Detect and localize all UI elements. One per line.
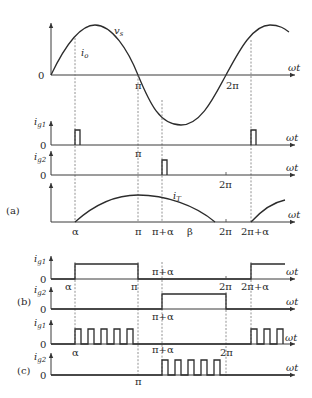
c-ig2-pulse-train [51, 360, 290, 375]
b-ig1-2pi-label: 2π [219, 281, 232, 292]
a-ig1-label: ig1 [34, 116, 46, 129]
it-next-cycle-curve [251, 200, 285, 222]
c-ig1-2pi-label: 2π [220, 347, 233, 358]
a-ig2-pulse [162, 160, 167, 175]
b-ig1-label: ig1 [34, 253, 46, 266]
a-ig2-plot: ig2 0 ωt 2π [34, 151, 299, 190]
vs-wt-label: ωt [288, 62, 301, 73]
a-ig2-label: ig2 [34, 151, 47, 164]
vs-pi-label: π [135, 80, 142, 91]
panel-b-label: (b) [17, 296, 31, 307]
c-ig1-label: ig1 [34, 317, 46, 330]
c-ig2-zero: 0 [40, 370, 46, 381]
c-plots: ig1 0 ωt α π+α 2π ig2 0 ωt π (c) [17, 317, 299, 387]
b-ig2-wt: ωt [286, 296, 299, 307]
panel-c-label: (c) [17, 365, 31, 376]
c-ig1-zero: 0 [40, 339, 46, 350]
b-ig1-wt: ωt [286, 266, 299, 277]
b-ig2-label: ig2 [34, 284, 47, 297]
c-ig2-pi-label: π [135, 376, 142, 387]
a-it-alpha-label: α [72, 226, 79, 237]
vs-zero-label: 0 [38, 70, 44, 81]
a-ig1-pi-label: π [135, 148, 142, 159]
vs-two-pi-label: 2π [226, 80, 239, 91]
a-it-pi-alpha-label: π+α [152, 226, 174, 237]
a-ig1-plot: ig1 0 ωt π [34, 116, 299, 159]
c-ig1-wt: ωt [285, 332, 298, 343]
vs-plot: 0 π 2π ωt vs io [38, 23, 301, 222]
a-it-plot: iT ωt α π π+α β 2π 2π+α (a) [6, 183, 301, 237]
a-it-2pi-alpha-label: 2π+α [241, 226, 269, 237]
b-ig1-zero: 0 [40, 274, 46, 285]
a-it-beta-label: β [187, 226, 193, 237]
thyristor-gating-diagram: 0 π 2π ωt vs io ig1 0 ωt π ig2 0 ωt 2π i… [0, 0, 312, 398]
a-ig1-zero: 0 [40, 140, 46, 151]
b-ig1-alpha-label: α [65, 281, 72, 292]
c-ig1-alpha-label: α [72, 347, 79, 358]
b-ig2-pi-alpha-label: π+α [152, 311, 174, 322]
c-ig2-label: ig2 [34, 351, 47, 364]
a-ig1-pulse-2pi-alpha [251, 130, 256, 145]
b-ig2-wave [51, 294, 290, 309]
b-ig1-2pi-alpha-label: 2π+α [241, 281, 269, 292]
it-conduction-curve [75, 195, 215, 222]
b-ig1-pi-alpha-label: π+α [152, 266, 174, 277]
b-ig1-pi-label: π [131, 281, 138, 292]
io-label: io [81, 47, 88, 60]
a-ig2-zero: 0 [40, 170, 46, 181]
a-it-wt: ωt [288, 209, 301, 220]
b-ig2-zero: 0 [40, 304, 46, 315]
a-ig1-wt: ωt [286, 132, 299, 143]
a-ig2-2pi-label: 2π [219, 179, 232, 190]
c-ig1-pulse-train [51, 329, 283, 344]
c-ig2-wt: ωt [286, 362, 299, 373]
a-it-2pi-label: 2π [219, 226, 232, 237]
b-plots: ig1 0 ωt α π π+α 2π 2π+α ig2 0 ωt π+α (b… [17, 253, 299, 376]
a-it-pi-label: π [135, 226, 142, 237]
a-ig1-pulse-alpha [75, 130, 80, 145]
panel-a-label: (a) [6, 205, 20, 216]
c-ig1-pi-alpha-label: π+α [152, 344, 174, 355]
a-ig2-wt: ωt [286, 162, 299, 173]
